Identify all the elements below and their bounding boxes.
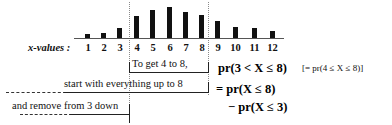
- bar-7: [183, 12, 188, 38]
- tick-label-7: 7: [178, 42, 194, 54]
- tick-label-1: 1: [80, 42, 96, 54]
- bar-6: [167, 7, 172, 38]
- bracket-range-right-tick: [208, 62, 209, 73]
- bar-11: [252, 28, 257, 38]
- bar-3: [117, 28, 122, 38]
- bar-12: [270, 31, 275, 38]
- tick-label-2: 2: [96, 42, 112, 54]
- tick-label-4: 4: [129, 42, 145, 54]
- tick-label-12: 12: [264, 42, 281, 54]
- equation-line-2: = pr(X ≤ 8): [216, 82, 275, 96]
- probability-histogram-figure: x-values : 1 2 3 4 5 6 7 8 9 10 11 12 To…: [0, 0, 392, 125]
- bracket-upto8-rule: [64, 92, 209, 93]
- bar-4: [134, 16, 139, 38]
- tick-label-5: 5: [145, 42, 161, 54]
- bracket-from3-rule: [70, 114, 130, 115]
- x-axis-line: [74, 38, 284, 39]
- annotation-and-remove-from-3-down: and remove from 3 down: [12, 100, 118, 112]
- annotation-to-get-4-to-8: To get 4 to 8,: [132, 58, 188, 70]
- equation-line-1-note: [= pr(4 ≤ X ≤ 8)]: [302, 63, 363, 74]
- tick-label-10: 10: [227, 42, 244, 54]
- tick-label-3: 3: [112, 42, 128, 54]
- bracket-upto8-right-tick: [208, 82, 209, 93]
- equation-line-3: − pr(X ≤ 3): [228, 100, 287, 114]
- bar-5: [150, 10, 155, 38]
- tick-label-8: 8: [194, 42, 210, 54]
- tick-label-9: 9: [210, 42, 226, 54]
- x-values-label: x-values :: [28, 42, 70, 54]
- bracket-from3-dashed-tail: [20, 114, 72, 115]
- bar-8: [199, 15, 204, 38]
- equation-line-1: pr(3 < X ≤ 8): [218, 61, 287, 75]
- bracket-range-left-tick: [129, 62, 130, 73]
- annotation-start-with-everything: start with everything up to 8: [64, 78, 183, 90]
- tick-label-6: 6: [162, 42, 178, 54]
- bracket-upto8-dashed-tail: [6, 92, 66, 93]
- bar-9: [215, 21, 220, 38]
- bar-10: [233, 27, 238, 38]
- bracket-range-4-to-8-rule: [129, 72, 209, 73]
- bracket-from3-right-tick: [129, 104, 130, 123]
- tick-label-11: 11: [246, 42, 263, 54]
